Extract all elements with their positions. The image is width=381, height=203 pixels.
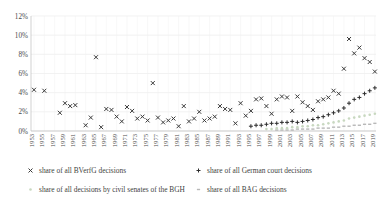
x-axis-tick-label: 1953 [28,133,35,147]
x-axis-tick-label: 1961 [69,134,76,147]
legend-item-bverfg[interactable]: share of all BVerfG decisions [26,166,194,175]
x-axis-tick-label: 1955 [38,133,45,147]
x-axis-tick-label: 2011 [328,134,335,147]
x-axis-tick-label: 1983 [183,133,190,147]
legend-marker-dash-icon [194,185,203,194]
x-axis-tick-label: 1991 [224,134,231,147]
x-axis-tick-label: 1963 [80,133,87,147]
legend-marker-dot-icon [26,185,35,194]
x-axis-tick-label: 1959 [59,133,66,147]
y-axis-tick-label: 12% [15,13,28,21]
x-axis-tick-label: 1981 [173,134,180,147]
legend-item-bag[interactable]: share of all BAG decisions [194,185,376,194]
chart-container: 0%2%4%6%8%10%12%195319551957195919611963… [0,0,381,203]
x-axis-tick-label: 2007 [307,133,314,147]
x-axis-tick-label: 1979 [162,133,169,147]
x-axis-tick-label: 1987 [204,133,211,147]
x-axis-tick-label: 1977 [152,133,159,147]
x-axis-tick-label: 2003 [286,133,293,147]
legend-item-bgh-civil[interactable]: share of all decisions by civil senates … [26,185,194,194]
legend-marker-x-icon [26,166,35,175]
legend-label-german-courts: share of all German court decisions [207,167,312,174]
legend-label-bag: share of all BAG decisions [207,186,287,193]
legend-marker-plus-icon [194,166,203,175]
x-axis-tick-label: 2013 [338,133,345,147]
x-axis-tick-label: 2015 [348,133,355,147]
y-axis-tick-label: 10% [15,32,28,40]
x-axis-tick-label: 2001 [276,134,283,147]
x-axis-tick-label: 1999 [266,133,273,147]
x-axis-tick-label: 2009 [317,133,324,147]
x-axis-tick-label: 1975 [142,133,149,147]
x-axis-tick-label: 1969 [111,133,118,147]
x-axis-tick-label: 1989 [214,133,221,147]
x-axis-tick-label: 1971 [121,134,128,147]
x-axis-tick-label: 2017 [359,133,366,147]
y-axis-tick-label: 6% [18,70,28,78]
x-axis-tick-label: 1997 [255,133,262,147]
legend-label-bgh-civil: share of all decisions by civil senates … [39,186,185,193]
x-axis-tick-label: 1985 [193,133,200,147]
x-axis-tick-label: 1965 [90,133,97,147]
y-axis-tick-label: 4% [18,89,28,97]
x-axis-tick-label: 1973 [131,133,138,147]
y-axis-tick-label: 0% [18,128,28,136]
y-axis-tick-label: 8% [18,51,28,59]
legend-label-bverfg: share of all BVerfG decisions [39,167,126,174]
x-axis-tick-label: 2019 [369,133,376,147]
y-axis-tick-label: 2% [18,108,28,116]
x-axis-tick-label: 1957 [49,133,56,147]
x-axis-tick-label: 2005 [297,133,304,147]
x-axis-tick-label: 1995 [245,133,252,147]
x-axis-tick-label: 1993 [235,133,242,147]
x-axis-tick-label: 1967 [100,133,107,147]
legend-item-german-courts[interactable]: share of all German court decisions [194,166,376,175]
chart-legend: share of all BVerfG decisions share of a… [26,161,376,199]
